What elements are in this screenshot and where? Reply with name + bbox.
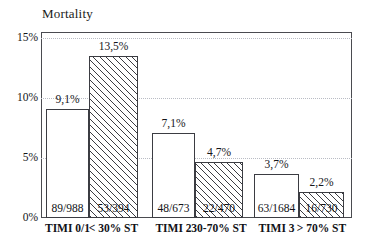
bar-value-label: 9,1% (46, 93, 89, 105)
bar-value-label: 3,7% (254, 158, 299, 170)
bar-fraction-label: 89/988 (46, 202, 89, 214)
chart-title: Mortality (42, 6, 93, 22)
bar-30-st (89, 56, 138, 218)
y-axis-tick-label: 5% (4, 151, 38, 163)
y-axis-tick-label: 0% (4, 211, 38, 223)
x-axis-label-5: > 70% ST (293, 222, 350, 234)
bar-fraction-label: 48/673 (152, 202, 195, 214)
bar-fraction-label: 16/730 (299, 202, 344, 214)
x-axis-label-3: 30-70% ST (189, 222, 249, 234)
y-axis-tick-label: 15% (4, 31, 38, 43)
bar-fraction-label: 63/1684 (254, 202, 299, 214)
plot-inner-area: 9,1%89/98813,5%53/3947,1%48/6734,7%22/47… (41, 32, 352, 218)
gridline (41, 38, 352, 39)
bar-value-label: 4,7% (195, 146, 243, 158)
bar-fraction-label: 53/394 (89, 202, 138, 214)
bar-value-label: 13,5% (89, 40, 138, 52)
y-axis-tick-label: 10% (4, 91, 38, 103)
bar-fraction-label: 22/470 (195, 202, 243, 214)
bar-value-label: 2,2% (299, 176, 344, 188)
mortality-bar-chart: Mortality 9,1%89/98813,5%53/3947,1%48/67… (0, 0, 366, 252)
x-axis-label-1: < 30% ST (83, 222, 144, 234)
bar-value-label: 7,1% (152, 117, 195, 129)
